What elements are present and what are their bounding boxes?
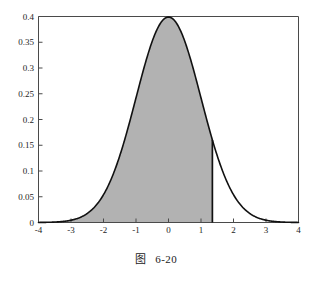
y-tick-label: 0.4	[23, 12, 35, 22]
y-tick-label: 0	[30, 218, 35, 228]
y-tick-label: 0.2	[23, 115, 34, 125]
y-axis-tick-labels: 00.050.10.150.20.250.30.350.4	[18, 12, 34, 228]
x-tick-label: -2	[100, 225, 108, 235]
caption-number: 6-20	[155, 253, 177, 265]
x-tick-label: -1	[132, 225, 140, 235]
x-tick-label: 0	[166, 225, 171, 235]
y-tick-marks	[39, 17, 43, 223]
x-tick-label: 4	[296, 225, 301, 235]
caption-label: 图	[135, 253, 147, 265]
x-tick-label: 2	[231, 225, 236, 235]
y-tick-label: 0.15	[18, 140, 34, 150]
x-tick-label: -4	[35, 225, 43, 235]
y-tick-label: 0.1	[23, 166, 34, 176]
figure-container: 00.050.10.150.20.250.30.350.4 -4-3-2-101…	[0, 0, 312, 281]
x-tick-label: -3	[67, 225, 75, 235]
x-axis-tick-labels: -4-3-2-101234	[35, 225, 302, 235]
y-tick-label: 0.35	[18, 37, 34, 47]
y-tick-label: 0.05	[18, 192, 34, 202]
y-tick-label: 0.3	[23, 63, 35, 73]
x-tick-label: 3	[264, 225, 269, 235]
y-tick-label: 0.25	[18, 89, 34, 99]
normal-distribution-chart: 00.050.10.150.20.250.30.350.4 -4-3-2-101…	[0, 0, 312, 281]
x-tick-label: 1	[199, 225, 204, 235]
figure-caption: 图6-20	[0, 250, 312, 266]
